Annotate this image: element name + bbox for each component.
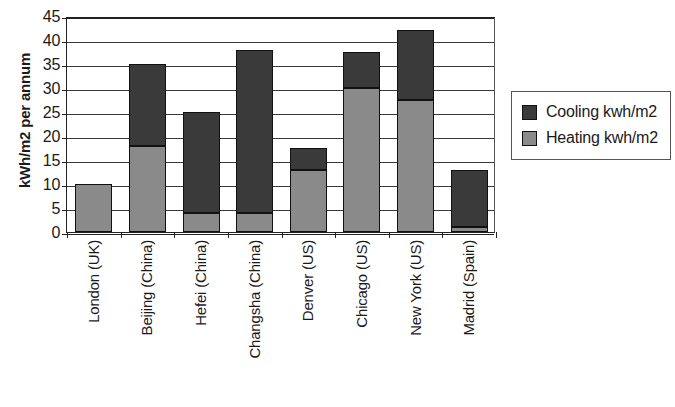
bar-segment-cooling[interactable] — [397, 30, 434, 100]
y-tick-mark-15 — [62, 162, 67, 163]
x-label-slot: Changsha (China) — [227, 240, 281, 400]
gridline-0 — [67, 234, 494, 235]
y-tick-label-5: 5 — [26, 201, 60, 217]
y-tick-label-0: 0 — [26, 225, 60, 241]
bar-segment-cooling[interactable] — [183, 112, 220, 213]
chart-legend: Cooling kwh/m2 Heating kwh/m2 — [511, 91, 671, 160]
x-axis-category-labels: London (UK)Beijing (China)Hefei (China)C… — [66, 240, 495, 400]
x-axis-label: Changsha (China) — [246, 240, 261, 359]
y-tick-label-10: 10 — [26, 177, 60, 193]
chart-plot-area — [66, 17, 495, 233]
y-tick-label-15: 15 — [26, 153, 60, 169]
y-tick-label-30: 30 — [26, 81, 60, 97]
x-tick-mark — [121, 232, 122, 238]
bar-group[interactable] — [236, 16, 273, 232]
bar-segment-cooling[interactable] — [343, 52, 380, 88]
x-label-slot: London (UK) — [66, 240, 120, 400]
x-axis-label: Beijing (China) — [139, 240, 154, 335]
y-tick-label-25: 25 — [26, 105, 60, 121]
bar-segment-heating[interactable] — [75, 184, 112, 232]
y-tick-mark-40 — [62, 42, 67, 43]
legend-label-cooling: Cooling kwh/m2 — [546, 104, 657, 120]
y-tick-mark-25 — [62, 114, 67, 115]
bar-group[interactable] — [129, 16, 166, 232]
legend-label-heating: Heating kwh/m2 — [546, 130, 658, 146]
bar-segment-cooling[interactable] — [451, 170, 488, 228]
x-axis-label: Madrid (Spain) — [461, 240, 476, 336]
x-tick-mark — [67, 232, 68, 238]
x-label-slot: Madrid (Spain) — [441, 240, 495, 400]
x-label-slot: Beijing (China) — [120, 240, 174, 400]
x-label-slot: Denver (US) — [281, 240, 335, 400]
y-tick-mark-5 — [62, 210, 67, 211]
bar-group[interactable] — [343, 16, 380, 232]
bar-group[interactable] — [290, 16, 327, 232]
heating-swatch-icon — [522, 131, 537, 146]
bar-segment-heating[interactable] — [290, 170, 327, 232]
bar-group[interactable] — [397, 16, 434, 232]
y-tick-label-35: 35 — [26, 57, 60, 73]
y-tick-mark-30 — [62, 90, 67, 91]
x-axis-label: Hefei (China) — [193, 240, 208, 326]
x-label-slot: New York (US) — [388, 240, 442, 400]
x-tick-mark — [174, 232, 175, 238]
y-axis-tick-labels: 454035302520151050 — [26, 17, 60, 233]
x-axis-label: London (UK) — [85, 240, 100, 323]
bar-segment-heating[interactable] — [183, 213, 220, 232]
x-tick-mark — [228, 232, 229, 238]
bar-segment-heating[interactable] — [129, 146, 166, 232]
x-axis-label: Denver (US) — [300, 240, 315, 321]
bar-group[interactable] — [75, 16, 112, 232]
x-label-slot: Hefei (China) — [173, 240, 227, 400]
x-tick-mark — [442, 232, 443, 238]
legend-item-heating: Heating kwh/m2 — [522, 125, 658, 151]
y-tick-mark-45 — [62, 18, 67, 19]
legend-item-cooling: Cooling kwh/m2 — [522, 99, 658, 125]
x-axis-label: New York (US) — [407, 240, 422, 336]
x-axis-label: Chicago (US) — [353, 240, 368, 328]
x-tick-mark — [496, 232, 497, 238]
bar-group[interactable] — [451, 16, 488, 232]
y-tick-mark-20 — [62, 138, 67, 139]
x-tick-mark — [335, 232, 336, 238]
x-tick-mark — [389, 232, 390, 238]
cooling-swatch-icon — [522, 105, 537, 120]
bar-segment-cooling[interactable] — [236, 50, 273, 213]
bar-segment-heating[interactable] — [397, 100, 434, 232]
bar-segment-heating[interactable] — [343, 88, 380, 232]
x-tick-mark — [282, 232, 283, 238]
y-tick-label-40: 40 — [26, 33, 60, 49]
y-tick-mark-10 — [62, 186, 67, 187]
y-tick-label-45: 45 — [26, 9, 60, 25]
bar-group[interactable] — [183, 16, 220, 232]
y-tick-label-20: 20 — [26, 129, 60, 145]
bar-segment-cooling[interactable] — [129, 64, 166, 146]
bar-segment-cooling[interactable] — [290, 148, 327, 170]
bar-segment-heating[interactable] — [236, 213, 273, 232]
bar-segment-heating[interactable] — [451, 227, 488, 232]
y-tick-mark-35 — [62, 66, 67, 67]
x-label-slot: Chicago (US) — [334, 240, 388, 400]
